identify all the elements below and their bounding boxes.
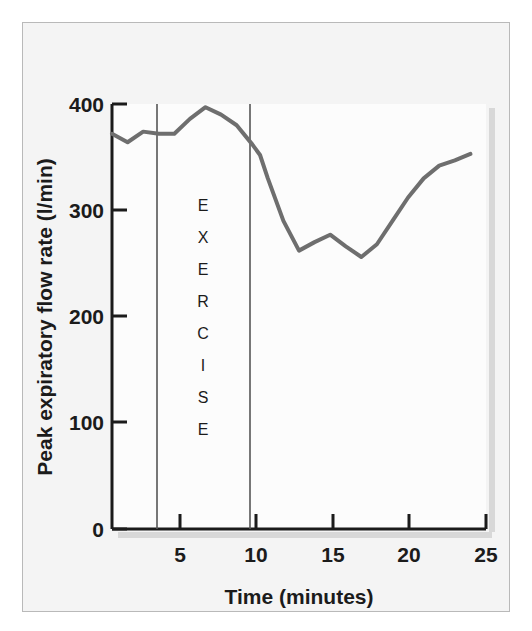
x-tick-label-20: 20 <box>397 543 420 566</box>
y-tick-label-200: 200 <box>69 305 104 328</box>
y-tick-label-300: 300 <box>69 199 104 222</box>
x-axis-tick-labels: 5 10 15 20 25 <box>174 543 498 566</box>
exercise-letter-7: S <box>198 389 209 406</box>
exercise-letter-3: E <box>198 261 209 278</box>
axis-shadow-bottom <box>118 532 492 538</box>
exercise-letter-1: E <box>198 197 209 214</box>
x-tick-label-5: 5 <box>174 543 186 566</box>
x-tick-label-10: 10 <box>244 543 267 566</box>
exercise-letter-4: R <box>197 293 209 310</box>
exercise-letter-2: X <box>198 229 209 246</box>
exercise-letter-6: I <box>201 357 205 374</box>
y-axis-title: Peak expiratory flow rate (l/min) <box>33 158 56 475</box>
x-tick-label-15: 15 <box>321 543 345 566</box>
axis-shadow-right <box>489 108 495 532</box>
x-axis-title: Time (minutes) <box>225 585 374 608</box>
x-tick-label-25: 25 <box>474 543 498 566</box>
plot-area-background <box>112 104 486 529</box>
y-tick-label-100: 100 <box>69 411 104 434</box>
exercise-letter-5: C <box>197 325 209 342</box>
figure-root: 400 300 200 100 0 5 10 15 20 25 E X <box>0 0 532 631</box>
y-tick-label-0: 0 <box>92 518 104 541</box>
peak-flow-line-chart: 400 300 200 100 0 5 10 15 20 25 E X <box>0 0 532 631</box>
exercise-letter-8: E <box>198 421 209 438</box>
y-tick-label-400: 400 <box>69 93 104 116</box>
y-axis-tick-labels: 400 300 200 100 0 <box>69 93 104 541</box>
